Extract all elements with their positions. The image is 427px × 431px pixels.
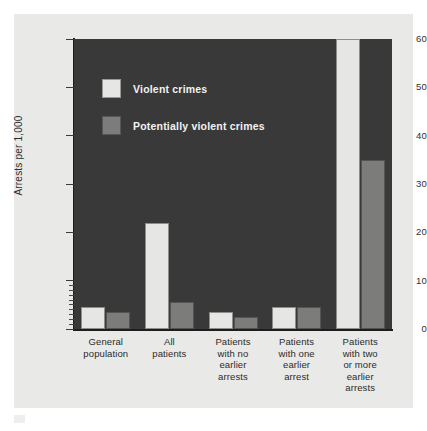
x-axis-category-label: Allpatients	[138, 336, 202, 359]
x-axis-category-label-line: earlier	[328, 371, 392, 383]
bar	[361, 160, 385, 329]
y-tick-mark	[66, 87, 74, 88]
y-tick-mark	[66, 135, 74, 136]
y-tick-mark	[66, 39, 74, 40]
x-axis-category-label-line: with one	[265, 348, 329, 360]
chart-legend: Violent crimes Potentially violent crime…	[102, 79, 265, 153]
x-axis-category-label-line: Patients	[328, 336, 392, 348]
legend-swatch-icon-potentially-violent	[102, 116, 121, 135]
scan-artifact	[14, 415, 25, 423]
x-axis-category-label-line: with no	[201, 348, 265, 360]
bar	[170, 302, 194, 329]
x-axis-category-label-line: with two	[328, 348, 392, 360]
bar	[145, 223, 169, 329]
chart-page: Arrests per 1,000 6050403020100 Violent …	[0, 0, 427, 431]
bar	[209, 312, 233, 329]
x-axis-category-label-line: Patients	[265, 336, 329, 348]
x-axis-category-label-line: population	[74, 348, 138, 360]
plot-area: Violent crimes Potentially violent crime…	[74, 39, 392, 329]
x-axis-category-label: Generalpopulation	[74, 336, 138, 359]
x-axis-category-label-line: General	[74, 336, 138, 348]
x-axis-category-label-line: arrests	[201, 371, 265, 383]
x-axis-category-label-line: arrest	[265, 371, 329, 383]
legend-label-potentially-violent: Potentially violent crimes	[133, 120, 265, 132]
x-axis-category-label-line: All	[138, 336, 202, 348]
y-tick-mark	[66, 280, 74, 281]
y-tick-mark	[66, 184, 74, 185]
legend-swatch-icon-violent	[102, 79, 121, 98]
x-axis-line	[73, 329, 393, 331]
bar	[106, 312, 130, 329]
x-axis-category-label: Patientswith twoor moreearlierarrests	[328, 336, 392, 394]
legend-item-potentially-violent-crimes: Potentially violent crimes	[102, 116, 265, 135]
x-axis-category-label-line: earlier	[201, 359, 265, 371]
x-axis-category-label-line: Patients	[201, 336, 265, 348]
bar	[272, 307, 296, 329]
y-axis-title: Arrests per 1,000	[13, 76, 24, 236]
legend-item-violent-crimes: Violent crimes	[102, 79, 265, 98]
x-axis-category-label-line: or more	[328, 359, 392, 371]
y-tick-mark	[66, 232, 74, 233]
x-axis-category-label-line: patients	[138, 348, 202, 360]
x-axis-category-label-line: earlier	[265, 359, 329, 371]
x-axis-category-label-line: arrests	[328, 382, 392, 394]
bar	[297, 307, 321, 329]
y-tick-mark	[66, 329, 74, 330]
bar	[234, 317, 258, 329]
x-axis-category-label: Patientswith noearlierarrests	[201, 336, 265, 382]
bar	[336, 39, 360, 329]
legend-label-violent: Violent crimes	[133, 83, 207, 95]
x-axis-category-label: Patientswith oneearlierarrest	[265, 336, 329, 382]
bar	[81, 307, 105, 329]
